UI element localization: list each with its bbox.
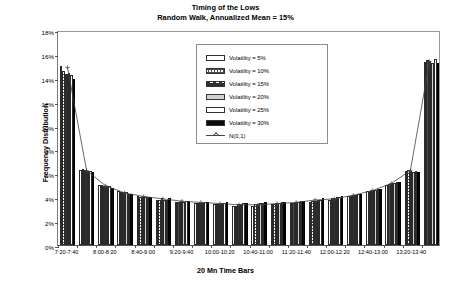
x-tick-mark — [250, 245, 251, 248]
x-tick-mark — [288, 245, 289, 248]
x-tick-mark — [364, 245, 365, 248]
legend-item-label: Volatility = 15% — [229, 81, 269, 87]
bar-group — [115, 32, 134, 245]
x-tick-mark — [326, 245, 327, 248]
x-tick-mark — [173, 245, 174, 248]
bar-group — [154, 32, 173, 245]
bar — [73, 79, 76, 245]
x-tick-label: 10:00-10:20 — [205, 249, 235, 255]
x-tick-mark — [58, 245, 59, 248]
x-tick-mark — [307, 245, 308, 248]
legend-item-label: Volatility = 20% — [229, 94, 269, 100]
bar — [188, 201, 191, 245]
bar — [417, 172, 420, 245]
bar-group — [403, 32, 422, 245]
bar — [130, 194, 133, 245]
y-tick-label: 14% — [42, 76, 54, 83]
y-tick-label: 12% — [42, 100, 54, 107]
chart-title-block: Timing of the Lows Random Walk, Annualiz… — [0, 3, 451, 23]
chart-subtitle: Random Walk, Annualized Mean = 15% — [0, 13, 451, 23]
bar-group — [58, 32, 77, 245]
x-tick-mark — [115, 245, 116, 248]
y-tick-label: 2% — [45, 220, 54, 227]
x-tick-mark — [211, 245, 212, 248]
chart-legend: Volatility = 5%Volatility = 10%Volatilit… — [196, 44, 328, 144]
bar — [168, 198, 171, 245]
legend-swatch — [206, 107, 225, 113]
x-tick-mark — [345, 245, 346, 248]
chart-title: Timing of the Lows — [0, 3, 451, 13]
bar — [379, 189, 382, 245]
x-tick-mark — [192, 245, 193, 248]
legend-swatch — [206, 81, 225, 87]
y-tick-label: 18% — [42, 29, 54, 36]
legend-item-label: Volatility = 30% — [229, 120, 269, 126]
legend-item-label: Volatility = 10% — [229, 68, 269, 74]
legend-item: Volatility = 15% — [197, 77, 327, 90]
bar — [264, 202, 267, 245]
bar — [92, 172, 95, 245]
x-tick-label: 13:20-13:40 — [396, 249, 426, 255]
x-tick-mark — [384, 245, 385, 248]
legend-item: N(0,1) — [197, 129, 327, 142]
x-tick-mark — [269, 245, 270, 248]
legend-item-label: N(0,1) — [229, 133, 245, 139]
bar-group — [326, 32, 345, 245]
y-tick-label: 10% — [42, 124, 54, 131]
x-axis-label: 20 Mn Time Bars — [0, 266, 451, 275]
x-tick-label: 8:00-8:20 — [93, 249, 117, 255]
x-tick-label: 11:20-11:40 — [282, 249, 311, 255]
x-tick-mark — [230, 245, 231, 248]
bar — [149, 197, 152, 245]
legend-item: Volatility = 30% — [197, 116, 327, 129]
x-tick-label: 12:40-13:00 — [358, 249, 388, 255]
x-tick-mark — [96, 245, 97, 248]
bar-group — [77, 32, 96, 245]
bar — [437, 63, 440, 245]
legend-swatch — [206, 120, 225, 126]
bar — [283, 202, 286, 245]
x-tick-label: 10:40-11:00 — [243, 249, 272, 255]
chart-container: Timing of the Lows Random Walk, Annualiz… — [0, 0, 451, 286]
bar-group — [345, 32, 364, 245]
bar — [226, 202, 229, 245]
bar-group — [135, 32, 154, 245]
x-tick-label: 12:00-12:20 — [320, 249, 350, 255]
legend-item: Volatility = 5% — [197, 51, 327, 64]
bar-group — [422, 32, 441, 245]
legend-item: Volatility = 20% — [197, 90, 327, 103]
y-tick-label: 16% — [42, 52, 54, 59]
bar — [245, 203, 248, 245]
bar — [207, 202, 210, 245]
bar — [302, 201, 305, 245]
x-tick-label: 8:40-9:00 — [131, 249, 155, 255]
legend-item-label: Volatility = 5% — [229, 55, 266, 61]
legend-item-label: Volatility = 25% — [229, 107, 269, 113]
x-tick-label: 9:20-9:40 — [170, 249, 194, 255]
legend-swatch — [206, 68, 225, 74]
y-tick-label: 8% — [45, 148, 54, 155]
legend-swatch — [206, 94, 225, 100]
bar-group — [96, 32, 115, 245]
y-tick-label: 6% — [45, 172, 54, 179]
y-tick-label: 0% — [45, 244, 54, 251]
bar-group — [364, 32, 383, 245]
x-tick-mark — [422, 245, 423, 248]
legend-line-marker-icon — [206, 133, 225, 139]
bar — [398, 182, 401, 245]
bar — [322, 198, 325, 245]
legend-swatch — [206, 55, 225, 61]
legend-item: Volatility = 10% — [197, 64, 327, 77]
bar — [360, 194, 363, 245]
bar — [111, 188, 114, 245]
bar-group — [384, 32, 403, 245]
bar-group — [173, 32, 192, 245]
y-axis-label: Frequency Distribution — [41, 104, 50, 183]
x-tick-mark — [403, 245, 404, 248]
x-tick-mark — [77, 245, 78, 248]
x-tick-mark — [135, 245, 136, 248]
x-tick-mark — [154, 245, 155, 248]
legend-item: Volatility = 25% — [197, 103, 327, 116]
y-tick-label: 4% — [45, 196, 54, 203]
x-tick-label: 7:20-7:40 — [55, 249, 79, 255]
